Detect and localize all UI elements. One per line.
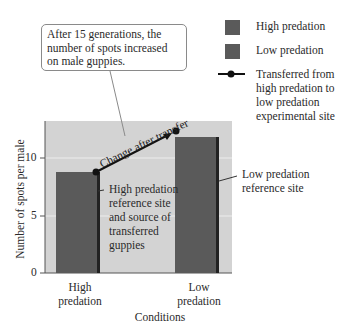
y-tick-5: 5 — [31, 209, 37, 221]
y-axis-label: Number of spots per male — [14, 134, 26, 264]
bar-low-predation — [175, 137, 217, 273]
legend-label-high: High predation — [256, 19, 325, 33]
callout-box: After 15 generations, the number of spot… — [41, 24, 187, 71]
legend-swatch-low — [225, 44, 240, 59]
annotation-low-site: Low predation reference site — [242, 167, 309, 195]
legend-swatch-high — [225, 20, 240, 35]
annotation-high-site: High predation reference site and source… — [109, 182, 178, 252]
x-category-low: Low predation — [164, 280, 234, 308]
transfer-start-marker — [93, 169, 100, 176]
bar-high-predation — [56, 172, 98, 273]
legend-label-transfer: Transferred from high predation to low p… — [256, 67, 335, 123]
x-category-high: High predation — [45, 280, 115, 308]
y-tick-0: 0 — [31, 266, 37, 278]
x-axis-label: Conditions — [100, 311, 220, 323]
y-tick-10: 10 — [25, 151, 37, 163]
legend-label-low: Low predation — [256, 43, 323, 57]
